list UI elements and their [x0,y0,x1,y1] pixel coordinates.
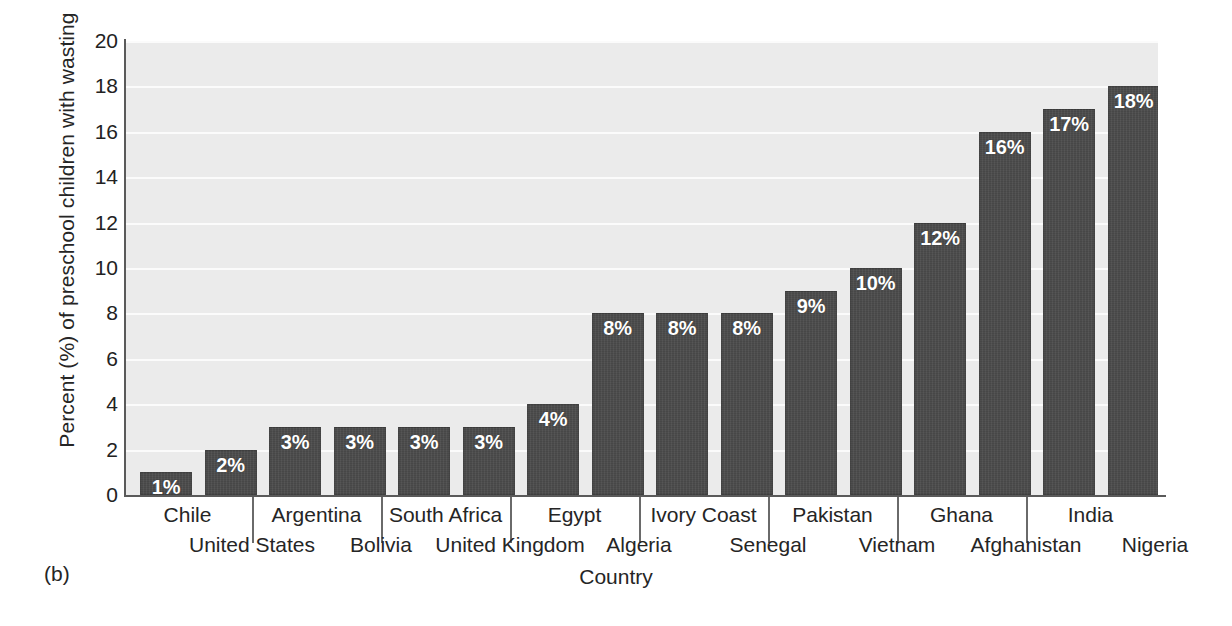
bar: 17% [1043,109,1095,495]
bar: 8% [721,313,773,495]
bar-value-label: 3% [269,431,321,454]
bar-value-label: 18% [1108,90,1159,113]
bar: 4% [527,404,579,495]
y-axis-tick-label: 10 [95,256,118,280]
bar-value-label: 16% [979,136,1031,159]
bar-value-label: 8% [721,317,773,340]
figure-panel-b: Percent (%) of preschool children with w… [0,0,1232,626]
x-axis-category-label: Egypt [548,503,602,527]
y-axis-tick-label: 0 [106,483,118,507]
bar-value-label: 8% [656,317,708,340]
gridline [126,86,1158,88]
bar: 9% [785,291,837,495]
bar: 8% [592,313,644,495]
bar: 3% [463,427,515,495]
x-axis-category-label: United Kingdom [435,533,584,557]
x-axis-category-label: United States [189,533,315,557]
x-axis-category-label: South Africa [389,503,502,527]
y-axis-tick-label: 4 [106,392,118,416]
y-axis-tick-label: 14 [95,165,118,189]
y-axis-tick-label: 20 [95,29,118,53]
x-axis-category-label: Chile [164,503,212,527]
bar-value-label: 17% [1043,113,1095,136]
bar-value-label: 10% [850,272,902,295]
bar-value-label: 1% [140,476,192,495]
bar: 1% [140,472,192,495]
bar-value-label: 4% [527,408,579,431]
x-axis-category-label: Ivory Coast [650,503,756,527]
y-axis-tick-label: 16 [95,120,118,144]
y-axis-tick-label: 18 [95,74,118,98]
bar: 10% [850,268,902,495]
y-axis-tick-labels: 02468101214161820 [76,0,118,626]
x-axis-category-label: India [1068,503,1114,527]
plot-area: 1%2%3%3%3%3%4%8%8%8%9%10%12%16%17%18% [126,41,1158,495]
bar-value-label: 3% [334,431,386,454]
plot-frame: 1%2%3%3%3%3%4%8%8%8%9%10%12%16%17%18% [126,41,1158,495]
bar: 3% [334,427,386,495]
bar-value-label: 3% [463,431,515,454]
bar: 18% [1108,86,1159,495]
bar-value-label: 8% [592,317,644,340]
bar-value-label: 9% [785,295,837,318]
bar-value-label: 12% [914,227,966,250]
bar: 3% [398,427,450,495]
x-axis-category-label: Bolivia [350,533,412,557]
y-axis-tick-label: 12 [95,211,118,235]
bar: 8% [656,313,708,495]
y-axis-tick-label: 8 [106,301,118,325]
x-axis-category-label: Senegal [729,533,806,557]
bar-value-label: 3% [398,431,450,454]
gridline [126,41,1158,43]
x-axis-category-label: Argentina [272,503,362,527]
bar: 2% [205,450,257,495]
x-axis-line [124,495,1166,497]
x-axis-title: Country [0,565,1232,589]
y-axis-tick-label: 2 [106,438,118,462]
x-axis-category-label: Pakistan [792,503,873,527]
y-axis-tick-label: 6 [106,347,118,371]
bar: 16% [979,132,1031,495]
x-axis-category-label: Afghanistan [971,533,1082,557]
x-axis-category-label: Ghana [930,503,993,527]
bar: 12% [914,223,966,495]
x-axis-category-label: Nigeria [1122,533,1189,557]
panel-caption: (b) [44,562,70,586]
bar: 3% [269,427,321,495]
bar-value-label: 2% [205,454,257,477]
x-axis-category-label: Vietnam [859,533,936,557]
x-axis-category-label: Algeria [606,533,671,557]
